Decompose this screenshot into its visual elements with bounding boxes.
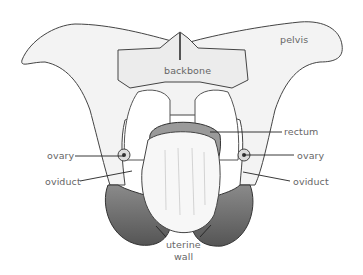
label-oviduct-right: oviduct bbox=[293, 177, 329, 187]
label-ovary-right: ovary bbox=[297, 151, 324, 161]
label-backbone: backbone bbox=[164, 66, 211, 76]
label-uterine-wall-line1: uterine bbox=[166, 240, 201, 250]
pelvis-diagram: pelvis backbone rectum ovary ovary ovidu… bbox=[0, 0, 363, 275]
label-rectum: rectum bbox=[284, 127, 318, 137]
pelvis-illustration bbox=[0, 0, 363, 275]
hand bbox=[142, 132, 220, 233]
label-ovary-left: ovary bbox=[47, 151, 74, 161]
label-uterine-wall-line2: wall bbox=[174, 252, 193, 262]
label-pelvis: pelvis bbox=[280, 35, 308, 45]
label-oviduct-left: oviduct bbox=[45, 177, 81, 187]
